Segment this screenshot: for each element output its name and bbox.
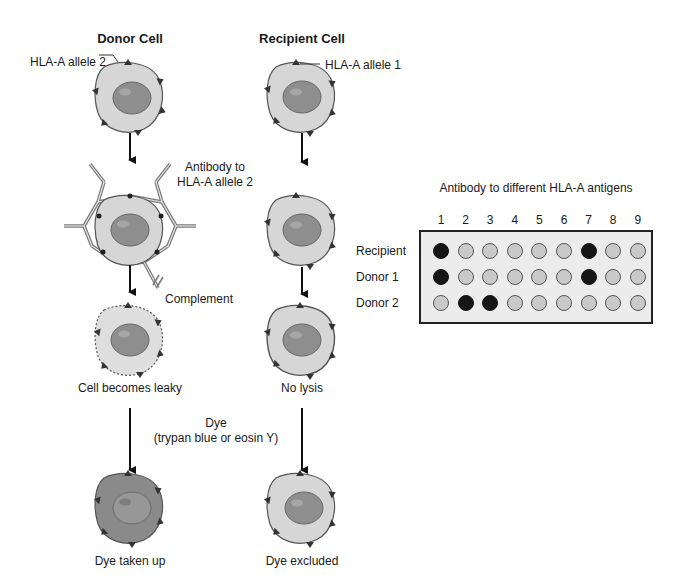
- well-negative: [531, 269, 547, 285]
- plate-column-1: 1: [433, 213, 449, 227]
- well-positive: [458, 295, 474, 311]
- recipient-cell-no-lysis: [263, 302, 337, 380]
- well-negative: [458, 269, 474, 285]
- complement-label: Complement: [165, 292, 233, 306]
- microtiter-plate: [419, 230, 653, 324]
- plate-row-label: Recipient: [356, 244, 406, 258]
- plate-column-7: 7: [581, 213, 597, 227]
- well-negative: [531, 243, 547, 259]
- well-negative: [531, 295, 547, 311]
- plate-column-3: 3: [482, 213, 498, 227]
- well-positive: [581, 269, 597, 285]
- well-positive: [581, 243, 597, 259]
- well-negative: [482, 269, 498, 285]
- donor-cell-dyed: [93, 470, 165, 548]
- well-negative: [556, 269, 572, 285]
- donor-antigen-label: HLA-A allele 2: [30, 55, 106, 69]
- leaky-cell-label: Cell becomes leaky: [60, 381, 200, 395]
- plate-column-9: 9: [630, 213, 646, 227]
- dye-type-label: (trypan blue or eosin Y): [136, 431, 296, 445]
- well-positive: [433, 269, 449, 285]
- well-negative: [630, 295, 646, 311]
- plate-column-8: 8: [605, 213, 621, 227]
- well-negative: [482, 243, 498, 259]
- plate-row-label: Donor 1: [356, 270, 399, 284]
- recipient-cell-dye-excluded: [263, 470, 337, 548]
- plate-column-6: 6: [556, 213, 572, 227]
- donor-cell-leaky: [93, 302, 165, 378]
- recipient-antigen-label: HLA-A allele 1: [325, 58, 401, 72]
- well-negative: [630, 243, 646, 259]
- plate-title: Antibody to different HLA-A antigens: [419, 181, 653, 195]
- plate-row-label: Donor 2: [356, 296, 399, 310]
- well-negative: [630, 269, 646, 285]
- well-negative: [507, 243, 523, 259]
- well-negative: [581, 295, 597, 311]
- well-positive: [433, 243, 449, 259]
- well-negative: [507, 295, 523, 311]
- well-positive: [482, 295, 498, 311]
- dye-taken-up-label: Dye taken up: [70, 554, 190, 568]
- recipient-cell-title: Recipient Cell: [252, 31, 352, 46]
- recipient-cell-antibody-step: [263, 192, 337, 270]
- plate-column-4: 4: [507, 213, 523, 227]
- well-negative: [433, 295, 449, 311]
- well-negative: [556, 295, 572, 311]
- well-negative: [556, 243, 572, 259]
- donor-cell-initial: [91, 59, 167, 136]
- well-negative: [458, 243, 474, 259]
- dye-label: Dye: [146, 416, 286, 430]
- well-negative: [605, 295, 621, 311]
- donor-cell-title: Donor Cell: [80, 31, 180, 46]
- dye-excluded-label: Dye excluded: [250, 554, 354, 568]
- well-negative: [605, 243, 621, 259]
- antibody-label-line2: HLA-A allele 2: [165, 175, 265, 189]
- plate-column-5: 5: [531, 213, 547, 227]
- no-lysis-label: No lysis: [262, 381, 342, 395]
- antibody-label-line1: Antibody to: [165, 160, 265, 174]
- well-negative: [605, 269, 621, 285]
- plate-column-2: 2: [458, 213, 474, 227]
- well-negative: [507, 269, 523, 285]
